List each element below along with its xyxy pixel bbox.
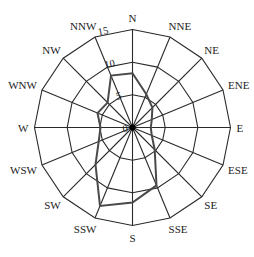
direction-label-wsw: WSW (10, 164, 38, 176)
direction-label-nnw: NNW (70, 20, 97, 32)
tick-label-5: 5 (115, 90, 122, 102)
tick-label-15: 15 (97, 25, 109, 38)
direction-spokes (35, 30, 231, 226)
direction-label-ese: ESE (228, 164, 248, 176)
direction-label-ssw: SSW (74, 223, 97, 235)
direction-label-w: W (18, 122, 29, 134)
wind-rose-svg: NNNENEENEEESESESSESSSWSWWSWWWNWNWNNW 051… (0, 0, 254, 257)
spoke-se (133, 128, 202, 197)
direction-label-ne: NE (204, 44, 219, 56)
tick-label-0: 0 (122, 123, 129, 135)
center-dot (130, 125, 136, 131)
direction-label-s: S (129, 232, 135, 244)
direction-label-nw: NW (42, 44, 61, 56)
direction-label-n: N (129, 12, 137, 24)
direction-label-ene: ENE (228, 79, 250, 91)
direction-label-wnw: WNW (8, 79, 37, 91)
direction-label-se: SE (204, 199, 217, 211)
direction-label-nne: NNE (169, 20, 192, 32)
direction-label-e: E (237, 122, 244, 134)
direction-label-sse: SSE (169, 223, 188, 235)
spoke-ne (133, 58, 202, 127)
tick-label-10: 10 (103, 57, 115, 70)
direction-label-sw: SW (44, 199, 61, 211)
wind-rose-chart: NNNENEENEEESESESSESSSWSWWSWWWNWNWNNW 051… (0, 0, 254, 257)
